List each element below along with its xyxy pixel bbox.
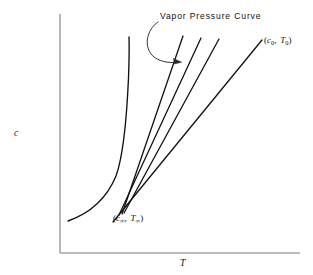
point-label-cinf-tinf: (c∞, T∞) xyxy=(113,214,143,223)
tie-line-2 xyxy=(119,38,201,215)
tie-line-3 xyxy=(124,39,219,213)
t-symbol: T xyxy=(131,213,136,223)
t-subscript: 0 xyxy=(285,39,288,46)
x-axis-label: T xyxy=(180,259,185,269)
c-subscript: ∞ xyxy=(120,217,125,224)
point-label-c0-t0: (c0, T0) xyxy=(264,36,291,45)
paren-close: ) xyxy=(140,213,143,223)
annotation-arrow-head xyxy=(173,58,181,64)
c-subscript: 0 xyxy=(271,39,274,46)
annotation-arrow-shaft xyxy=(147,22,179,62)
vapor-pressure-curve xyxy=(68,37,129,221)
vapor-pressure-curve-label: Vapor Pressure Curve xyxy=(160,12,261,21)
vapor-pressure-diagram: Vapor Pressure Curve c T (c0, T0) (c∞, T… xyxy=(0,0,313,275)
y-axis-label: c xyxy=(14,129,18,139)
t-subscript: ∞ xyxy=(136,217,141,224)
paren-close: ) xyxy=(288,35,291,45)
